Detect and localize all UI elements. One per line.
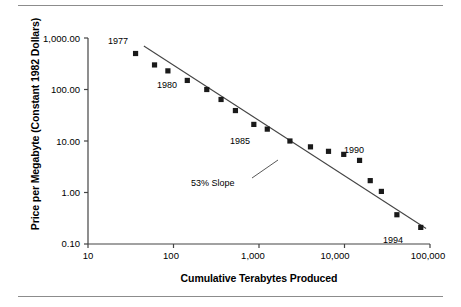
data-point-1993 (394, 212, 399, 217)
data-point-1979 (165, 68, 170, 73)
slope-leader-line (252, 160, 278, 178)
data-point-1981 (204, 87, 209, 92)
data-point-1980 (185, 78, 190, 83)
data-point-1988 (326, 149, 331, 154)
data-point-1977 (133, 51, 138, 56)
trend-line (144, 46, 426, 229)
data-point-1991 (368, 178, 373, 183)
data-point-1992 (379, 189, 384, 194)
data-point-1978 (152, 62, 157, 67)
data-point-1994 (418, 225, 423, 230)
data-point-1987 (308, 144, 313, 149)
data-point-1989 (341, 152, 346, 157)
data-point-1983 (233, 108, 238, 113)
data-point-1990 (357, 158, 362, 163)
plot-canvas (0, 0, 461, 307)
data-point-1985 (265, 127, 270, 132)
chart-figure: Price per Megabyte (Constant 1982 Dollar… (0, 0, 461, 307)
data-point-1984 (251, 122, 256, 127)
data-point-1986 (287, 138, 292, 143)
data-point-1982 (218, 97, 223, 102)
